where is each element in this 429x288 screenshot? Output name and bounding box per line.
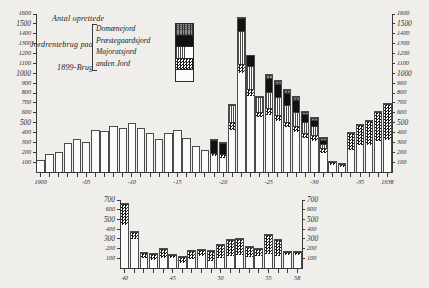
upper-plot-y-label-left: 1400 — [4, 30, 31, 36]
bar-1934 — [347, 132, 355, 172]
upper-plot-xtick — [195, 173, 196, 177]
upper-plot-ytick-r — [392, 53, 395, 54]
bar-segment-1899-brug — [302, 138, 308, 172]
lower-plot-x-label: 50 — [207, 275, 235, 281]
bar-segment-pr-stegaardsjord — [211, 140, 217, 152]
bar-segment-anden-jord — [284, 255, 291, 268]
upper-plot-xtick — [296, 173, 297, 177]
lower-plot-y-label-left: 500 — [88, 216, 115, 223]
bar-1954 — [254, 248, 263, 268]
bar-segment-1899-brug — [238, 73, 244, 172]
lower-plot-y-label-right: 200 — [307, 245, 316, 251]
bar-1943 — [149, 253, 158, 268]
upper-plot-ytick-l — [33, 102, 36, 103]
bar-segment-anden-jord — [266, 108, 272, 115]
upper-plot-y-label-left: 1600 — [4, 10, 31, 16]
lower-plot-xtick — [191, 269, 192, 273]
bar-segment-anden-jord — [160, 258, 167, 268]
upper-plot-y-label-left: 500 — [4, 119, 31, 126]
upper-plot-y-label-right: 300 — [397, 139, 406, 145]
bar-segment-1899-brug — [83, 143, 89, 172]
bar-1923 — [246, 55, 254, 173]
bar-1945 — [168, 254, 177, 268]
upper-plot-ytick-r — [392, 63, 395, 64]
bar-segment-anden-jord — [265, 254, 272, 268]
upper-plot-ytick-r — [392, 93, 395, 94]
lower-plot-ytick-l — [117, 258, 120, 259]
bar-1955 — [264, 234, 273, 268]
bar-1928 — [292, 96, 300, 172]
lower-plot-x-label: 58 — [283, 275, 311, 281]
bar-1912 — [146, 133, 154, 173]
upper-plot-y-label-right: 400 — [397, 129, 406, 135]
bar-segment-pr-stegaardsjord — [238, 18, 244, 31]
lower-plot-y-label-left: 300 — [88, 235, 115, 242]
upper-plot-y-label-left: 200 — [4, 149, 31, 155]
upper-plot-xtick — [95, 173, 96, 177]
bar-segment-majoratsjord — [188, 251, 195, 259]
bar-segment-anden-jord — [188, 259, 195, 268]
bar-1947 — [187, 250, 196, 268]
lower-plot-xtick — [124, 269, 125, 273]
lower-plot-xtick — [230, 269, 231, 273]
upper-plot-y-label-right: 800 — [397, 89, 406, 95]
bar-1957 — [283, 251, 292, 268]
lower-plot-ytick-l — [117, 219, 120, 220]
bar-segment-majoratsjord — [275, 97, 281, 116]
upper-plot-xtick — [378, 173, 379, 177]
lower-plot-xtick — [153, 269, 154, 273]
upper-plot-y-label-right: 100 — [397, 159, 406, 165]
bar-1921 — [228, 104, 236, 172]
bar-1946 — [178, 256, 187, 268]
bar-segment-1899-brug — [202, 151, 208, 172]
bar-1917 — [192, 146, 200, 172]
upper-plot-y-label-left: 1300 — [4, 40, 31, 46]
bar-segment-1899-brug — [183, 139, 189, 172]
bar-segment-anden-jord — [236, 255, 243, 268]
bar-segment-1899-brug — [56, 153, 62, 172]
lower-plot-ytick-r — [302, 219, 305, 220]
upper-plot-y-label-right: 500 — [397, 119, 408, 126]
lower-plot-area — [120, 200, 302, 268]
upper-plot-xtick — [323, 173, 324, 177]
lower-plot-y-label-right: 100 — [307, 255, 316, 261]
bar-1900 — [36, 160, 44, 172]
bar-segment-1899-brug — [229, 130, 235, 172]
upper-plot-xtick — [259, 173, 260, 177]
bar-1922 — [237, 17, 245, 172]
bar-segment-majoratsjord — [121, 204, 128, 225]
bar-segment-1899-brug — [147, 134, 153, 173]
upper-plot-xtick — [250, 173, 251, 177]
bar-segment-1899-brug — [120, 129, 126, 172]
upper-plot-y-label-left: 300 — [4, 139, 31, 145]
lower-plot-xtick — [258, 269, 259, 273]
upper-plot-ytick-r — [392, 23, 395, 24]
bar-segment-majoratsjord — [247, 66, 253, 89]
bar-1931 — [319, 137, 327, 172]
upper-plot-y-label-right: 1500 — [397, 20, 412, 27]
upper-plot-ytick-l — [33, 132, 36, 133]
bar-segment-majoratsjord — [238, 31, 244, 64]
lower-plot-y-label-left: 100 — [88, 255, 115, 261]
bar-segment-1899-brug — [101, 132, 107, 172]
bar-1911 — [137, 128, 145, 172]
lower-plot-y-label-right: 400 — [307, 226, 316, 232]
bar-1936 — [365, 120, 373, 172]
bar-segment-anden-jord — [238, 64, 244, 73]
bar-segment-1899-brug — [266, 115, 272, 172]
upper-plot-y-label-right: 200 — [397, 149, 406, 155]
bar-1926 — [274, 80, 282, 172]
bar-segment-anden-jord — [229, 122, 235, 130]
bar-segment-1899-brug — [211, 156, 217, 172]
upper-plot-xtick — [168, 173, 169, 177]
lower-plot-ytick-l — [117, 209, 120, 210]
bar-1956 — [274, 239, 283, 268]
lower-plot-xtick — [182, 269, 183, 273]
bar-segment-majoratsjord — [302, 122, 308, 134]
upper-plot-ytick-l — [33, 83, 36, 84]
upper-plot-y-label-left: 100 — [4, 159, 31, 165]
upper-plot-y-label-right: 900 — [397, 80, 406, 86]
upper-plot-xtick — [104, 173, 105, 177]
upper-plot-ytick-r — [392, 73, 395, 74]
upper-plot-ytick-l — [33, 14, 36, 15]
